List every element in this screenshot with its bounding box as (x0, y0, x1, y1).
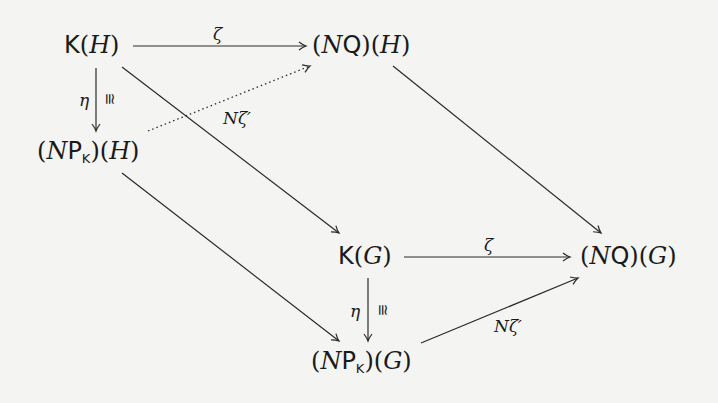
arg-g: G (363, 242, 382, 270)
label-iso-right: ≅ (374, 304, 392, 317)
arg-h: H (380, 31, 401, 59)
label-nzeta-bottom: Nζ′ (494, 318, 522, 335)
node-npk-h: (NPK)(H) (37, 139, 139, 165)
functor-p: P (341, 347, 355, 375)
label-iso-left: ≅ (101, 93, 119, 106)
arg-g: G (383, 347, 402, 375)
subscript-k: K (356, 361, 365, 376)
arg-h: H (109, 137, 130, 165)
node-k-h: K(H) (64, 33, 119, 57)
functor-q: Q (342, 31, 361, 59)
functor-q: Q (610, 242, 629, 270)
label-zeta-bottom: ζ (484, 237, 493, 254)
label-nzeta-dotted: Nζ′ (223, 110, 251, 127)
node-k-g: K(G) (338, 244, 392, 268)
label-eta-left: η (79, 92, 89, 109)
node-nq-h: (NQ)(H) (312, 33, 410, 57)
arrow-kh-kg (122, 67, 339, 233)
subscript-k: K (82, 151, 91, 166)
functor-p: P (67, 137, 81, 165)
arrows-layer (0, 0, 718, 403)
arrow-npkh-npkg (122, 173, 339, 341)
functor-n: N (321, 31, 342, 59)
arrow-nqh-nqg (393, 66, 601, 233)
node-nq-g: (NQ)(G) (580, 244, 677, 268)
label-zeta-top: ζ (213, 26, 222, 43)
label-eta-right: η (350, 303, 360, 320)
functor-k: K (64, 31, 80, 59)
functor-n: N (320, 347, 341, 375)
arg-h: H (89, 31, 110, 59)
functor-n: N (589, 242, 610, 270)
functor-n: N (46, 137, 67, 165)
node-npk-g: (NPK)(G) (311, 349, 412, 375)
functor-k: K (338, 242, 354, 270)
arg-g: G (648, 242, 667, 270)
